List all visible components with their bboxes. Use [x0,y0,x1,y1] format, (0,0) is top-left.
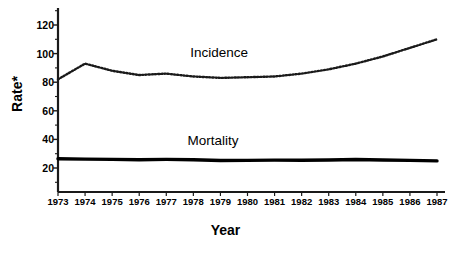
x-tick-label: 1973 [43,196,73,207]
plot-area [0,0,451,257]
x-tick-label: 1979 [205,196,235,207]
x-tick-label: 1985 [368,196,398,207]
x-tick-label: 1987 [422,196,451,207]
x-tick-label: 1984 [341,196,371,207]
x-tick-label: 1978 [178,196,208,207]
x-tick-label: 1976 [124,196,154,207]
series-label-mortality: Mortality [187,133,238,148]
x-tick-label: 1977 [151,196,181,207]
x-tick-label: 1986 [395,196,425,207]
x-tick-label: 1981 [260,196,290,207]
x-tick-label: 1983 [314,196,344,207]
x-tick-label: 1982 [287,196,317,207]
x-tick-label: 1975 [97,196,127,207]
chart-figure: Rate* 20406080100120 1973197419751976197… [0,0,451,257]
series-label-incidence: Incidence [190,45,248,60]
x-tick-label: 1980 [233,196,263,207]
x-axis-title: Year [0,222,451,238]
x-tick-label: 1974 [70,196,100,207]
series-line-mortality [58,159,437,161]
